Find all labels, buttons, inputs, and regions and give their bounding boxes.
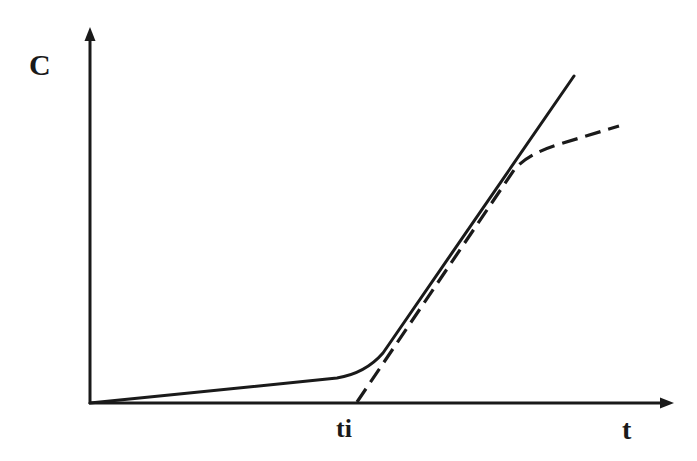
y-axis-label: C bbox=[29, 50, 51, 80]
solid-curve bbox=[90, 76, 574, 403]
diagram-canvas bbox=[0, 0, 697, 461]
x-axis-arrow-icon bbox=[660, 398, 674, 409]
induction-time-label: ti bbox=[336, 416, 352, 442]
dashed-curve bbox=[357, 126, 619, 402]
x-axis-label: t bbox=[622, 416, 631, 444]
y-axis-arrow-icon bbox=[85, 27, 96, 41]
